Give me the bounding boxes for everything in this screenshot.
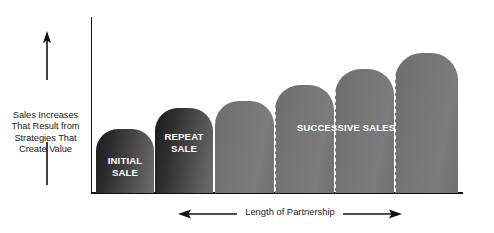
x-axis-caption: Length of Partnership	[175, 204, 405, 224]
group-divider-1	[275, 108, 277, 192]
bar-repeat-sale-label: REPEAT SALE	[155, 131, 213, 154]
bar-repeat-sale[interactable]: REPEAT SALE	[155, 108, 213, 193]
bar-repeat-sale-label-line-1: REPEAT	[155, 131, 213, 143]
bar-initial-sale-label-line-1: INITIAL	[96, 155, 154, 167]
bar-initial-sale[interactable]: INITIAL SALE	[96, 129, 154, 193]
bar-successive-sale-1[interactable]	[215, 101, 274, 193]
bar-successive-sale-2[interactable]	[275, 85, 334, 193]
group-divider-2	[335, 92, 337, 192]
bars-layer: INITIAL SALE REPEAT SALE SUCCESSIVE SALE…	[0, 0, 494, 233]
x-axis-label: Length of Partnership	[175, 206, 405, 217]
bar-initial-sale-label-line-2: SALE	[96, 167, 154, 179]
successive-sales-group-label: SUCCESSIVE SALES	[297, 122, 395, 133]
bar-successive-sale-4[interactable]	[395, 53, 458, 193]
bar-repeat-sale-label-line-2: SALE	[155, 143, 213, 155]
sales-partnership-chart: Sales Increases That Result from Strateg…	[0, 0, 494, 233]
bar-initial-sale-label: INITIAL SALE	[96, 155, 154, 178]
group-divider-3	[395, 76, 397, 192]
